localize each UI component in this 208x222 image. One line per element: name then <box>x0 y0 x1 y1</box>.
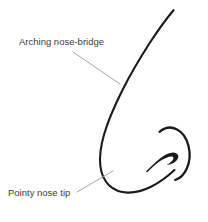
leader-line-pointy-nose-tip <box>77 171 113 192</box>
nose-bridge-and-tip-outline <box>100 10 174 192</box>
annotation-pointy-nose-tip: Pointy nose tip <box>8 171 113 198</box>
nostril-opening-shape <box>152 153 179 167</box>
nose-profile-diagram: Arching nose-bridge Pointy nose tip <box>0 0 208 222</box>
label-arching-nose-bridge: Arching nose-bridge <box>19 36 104 47</box>
nose-drawing <box>100 10 190 192</box>
label-pointy-nose-tip: Pointy nose tip <box>8 187 70 198</box>
leader-line-arching-nose-bridge <box>73 52 120 84</box>
annotation-arching-nose-bridge: Arching nose-bridge <box>19 36 120 84</box>
